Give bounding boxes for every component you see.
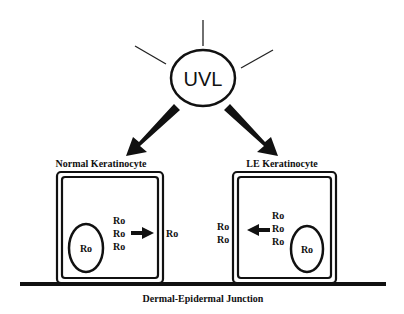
normal-cyto-ro-2: Ro [113,228,125,239]
arrow-left-icon [247,224,270,236]
normal-cyto-ro-3: Ro [113,241,125,252]
le-outside-ro-2: Ro [217,234,229,245]
le-outside-ro-1: Ro [217,221,229,232]
uvl-label: UVL [184,68,223,90]
normal-keratinocyte-cell: Ro Ro Ro Ro Ro [57,172,178,283]
le-cyto-ro-2: Ro [272,223,284,234]
uvl-source: UVL [171,50,235,106]
normal-keratinocyte-title: Normal Keratinocyte [56,158,147,169]
le-cyto-ro-1: Ro [272,210,284,221]
normal-outside-ro: Ro [166,228,178,239]
normal-cyto-ro-1: Ro [113,215,125,226]
le-keratinocyte-cell: Ro Ro Ro Ro Ro Ro [217,172,336,283]
arrow-to-le-icon [224,104,278,156]
le-cyto-ro-3: Ro [272,236,284,247]
arrow-right-icon [131,227,154,239]
uvl-keratinocyte-diagram: UVL Normal Keratinocyte LE Keratinocyte … [0,0,404,314]
le-keratinocyte-title: LE Keratinocyte [246,158,318,169]
baseline-label: Dermal-Epidermal Junction [143,293,264,304]
arrow-to-normal-icon [126,104,180,156]
le-nucleus-ro: Ro [301,244,313,255]
normal-nucleus-ro: Ro [80,243,92,254]
dermal-epidermal-baseline [20,282,386,286]
